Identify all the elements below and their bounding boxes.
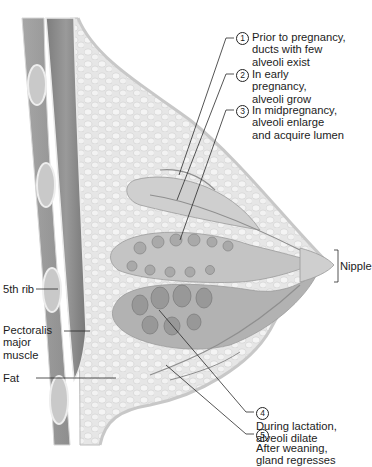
nipple-label: Nipple — [340, 260, 372, 272]
stage-2-label: 2 In early pregnancy, alveoli grow — [236, 68, 311, 105]
pectoralis-label: Pectoralis major muscle — [3, 324, 52, 361]
number-5-icon: 5 — [256, 429, 269, 442]
number-4-icon: 4 — [256, 407, 269, 420]
stage-1-label: 1 Prior to pregnancy, ducts with few alv… — [236, 31, 346, 68]
number-1-icon: 1 — [236, 32, 249, 45]
stage-5-label: 5 After weaning, gland regresses — [256, 428, 351, 467]
number-2-icon: 2 — [236, 69, 249, 82]
rib-label: 5th rib — [3, 283, 34, 295]
number-3-icon: 3 — [236, 105, 249, 118]
fat-label: Fat — [3, 372, 19, 384]
stage-3-label: 3 In midpregnancy, alveoli enlarge and a… — [236, 104, 344, 141]
